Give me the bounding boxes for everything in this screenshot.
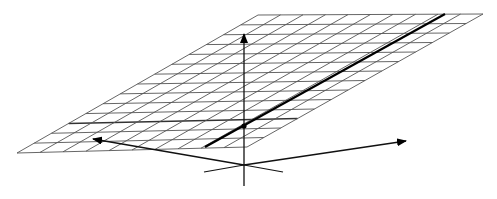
plane-diagram (0, 0, 497, 199)
intersection-point (241, 123, 246, 128)
right-axis-arrow-icon (244, 141, 406, 165)
diagram-canvas (0, 0, 497, 199)
left-axis-arrow-icon (93, 139, 244, 165)
plane-grid (17, 14, 483, 153)
back-right-axis (244, 165, 283, 172)
grid-col-line (63, 15, 303, 152)
back-left-axis (204, 165, 244, 172)
grid-col-line (17, 15, 258, 153)
grid-col-line (86, 15, 326, 152)
